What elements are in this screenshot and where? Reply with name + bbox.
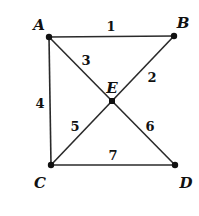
vertex-label-A: A: [31, 16, 45, 34]
edge-label-4: 4: [35, 96, 44, 111]
vertex-E: [109, 98, 115, 104]
vertex-label-C: C: [34, 174, 46, 192]
vertex-label-E: E: [105, 79, 118, 97]
vertex-A: [46, 34, 52, 40]
edge-label-6: 6: [145, 119, 154, 134]
edge-label-1: 1: [106, 19, 115, 34]
edge-label-5: 5: [70, 119, 79, 134]
vertex-C: [48, 162, 54, 168]
vertex-label-D: D: [178, 174, 192, 192]
edge-EB: [112, 36, 174, 101]
edge-AE: [49, 37, 112, 101]
edge-label-3: 3: [81, 53, 90, 68]
vertex-label-B: B: [176, 14, 190, 32]
vertex-B: [171, 33, 177, 39]
edge-label-7: 7: [108, 148, 117, 163]
edge-CE: [51, 101, 112, 165]
edge-label-2: 2: [147, 70, 156, 85]
edge-ED: [112, 101, 175, 165]
edge-AB: [49, 36, 174, 37]
graph-diagram: 1234567ABCDE: [0, 0, 199, 216]
vertex-D: [172, 162, 178, 168]
edge-AC: [49, 37, 51, 165]
